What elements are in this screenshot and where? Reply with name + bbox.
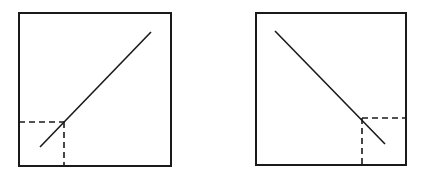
right-decreasing-line xyxy=(275,31,385,144)
left-panel xyxy=(19,13,171,166)
right-panel xyxy=(256,13,406,165)
diagram-canvas xyxy=(0,0,427,173)
left-increasing-line xyxy=(40,32,151,147)
